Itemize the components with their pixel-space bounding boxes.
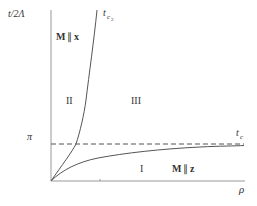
x-axis-label: ρ (238, 183, 244, 195)
region-III-label: III (131, 95, 141, 106)
tc-label-sub: c (240, 133, 244, 141)
m-parallel-z-M: M (172, 163, 182, 174)
pi-label: π (27, 131, 33, 142)
tc-label: t (236, 127, 239, 138)
phase-diagram: t/2Λ π t c 2 t c ρ II III I M ∥ x M ∥ z (0, 0, 257, 206)
tc-curve (51, 146, 244, 182)
m-parallel-z-par: ∥ (183, 163, 188, 175)
m-parallel-x-par: ∥ (67, 31, 72, 43)
m-parallel-x-M: M (56, 31, 66, 42)
tc2-label-subsub: 2 (111, 17, 114, 22)
region-II-label: II (66, 95, 73, 106)
m-parallel-x-x: x (74, 31, 79, 42)
m-parallel-z-z: z (190, 163, 195, 174)
region-I-label: I (140, 163, 143, 174)
tc2-label: t (103, 7, 106, 18)
y-axis-label: t/2Λ (8, 8, 25, 19)
